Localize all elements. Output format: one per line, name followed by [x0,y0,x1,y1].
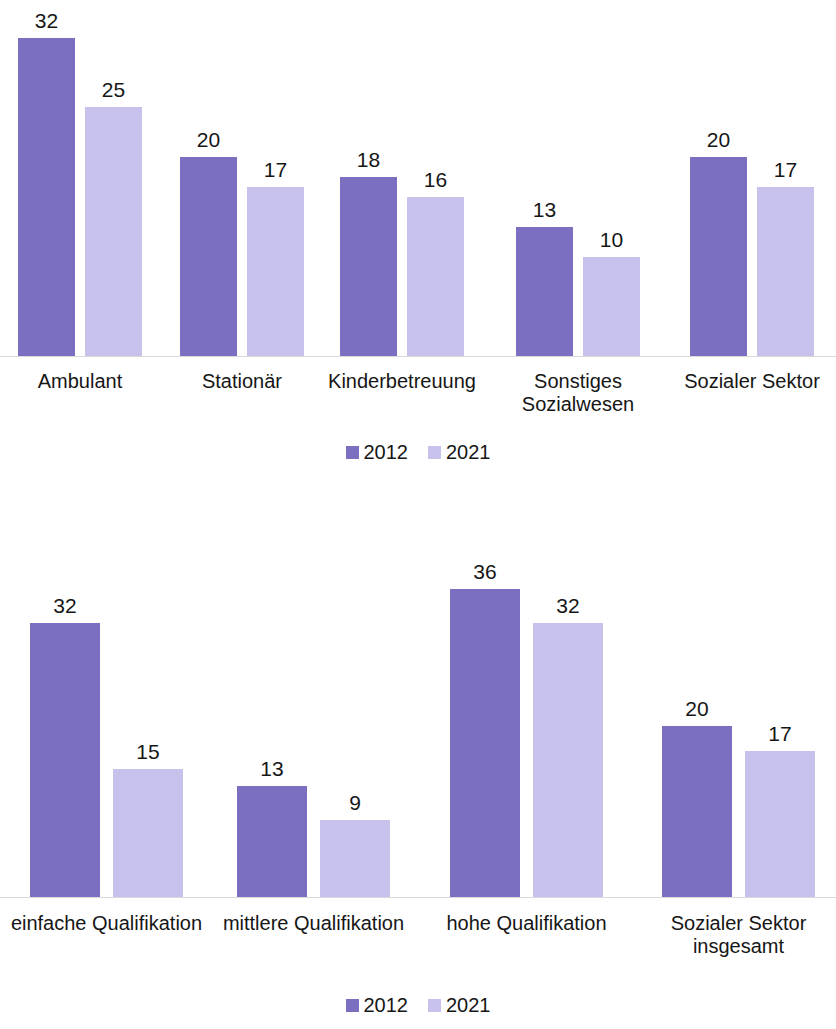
category-label: hohe Qualifikation [420,912,633,935]
bar [583,257,640,356]
chart-top: 32252017181613102017 2012 2021 AmbulantS… [0,0,836,490]
legend-top: 2012 2021 [0,442,836,462]
legend-item-2021: 2021 [428,995,491,1015]
bar-value-label: 10 [583,229,640,250]
bar [690,157,747,356]
bar-value-label: 20 [690,129,747,150]
bar-value-label: 13 [516,199,573,220]
x-axis-line-top [0,356,836,357]
bar [18,38,75,356]
legend-swatch-2021 [428,446,441,459]
bar-value-label: 36 [450,561,520,582]
bar [247,187,304,356]
legend-swatch-2012 [346,999,359,1012]
legend-label-2021: 2021 [446,995,491,1015]
category-label: Stationär [150,370,334,393]
x-axis-line-bottom [0,897,836,898]
bar-value-label: 32 [533,595,603,616]
bar [237,786,307,897]
bar [450,589,520,897]
bar-value-label: 17 [247,159,304,180]
bar-value-label: 32 [18,10,75,31]
legend-label-2021: 2021 [446,442,491,462]
bar [113,769,183,897]
bar [745,751,815,897]
bar-value-label: 16 [407,169,464,190]
legend-item-2012: 2012 [346,442,409,462]
bar [180,157,237,356]
chart-bottom: 321513936322017 2012 2021 einfache Quali… [0,500,836,1029]
bar [30,623,100,897]
bar [533,623,603,897]
bar-value-label: 13 [237,758,307,779]
bar [407,197,464,356]
bar [320,820,390,897]
legend-swatch-2021 [428,999,441,1012]
category-label: mittlere Qualifikation [207,912,420,935]
bar-value-label: 9 [320,792,390,813]
legend-item-2021: 2021 [428,442,491,462]
category-label: Sozialer Sektorinsgesamt [632,912,836,958]
category-label: einfache Qualifikation [0,912,213,935]
bar [340,177,397,356]
legend-label-2012: 2012 [364,442,409,462]
legend-label-2012: 2012 [364,995,409,1015]
category-label: SonstigesSozialwesen [486,370,670,416]
bar [757,187,814,356]
category-label: Sozialer Sektor [660,370,836,393]
bar [516,227,573,356]
plot-area-top: 32252017181613102017 [0,0,836,360]
category-label: Kinderbetreuung [310,370,494,393]
bar-value-label: 17 [757,159,814,180]
bar [85,107,142,356]
bar-value-label: 20 [662,698,732,719]
bar-value-label: 32 [30,595,100,616]
bar [662,726,732,897]
bar-value-label: 25 [85,79,142,100]
bar-value-label: 15 [113,741,183,762]
plot-area-bottom: 321513936322017 [0,500,836,900]
category-label: Ambulant [0,370,172,393]
bar-value-label: 17 [745,723,815,744]
legend-swatch-2012 [346,446,359,459]
bar-value-label: 20 [180,129,237,150]
legend-item-2012: 2012 [346,995,409,1015]
bar-value-label: 18 [340,149,397,170]
legend-bottom: 2012 2021 [0,995,836,1015]
